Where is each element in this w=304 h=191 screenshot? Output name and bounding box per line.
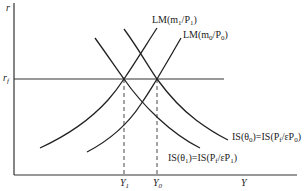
is1-label: IS(θ1)=IS(Pf/εP1)	[168, 152, 237, 165]
is1-curve	[95, 38, 200, 148]
lm0-label: LM(m0/P0)	[183, 29, 228, 42]
lm1-curve	[40, 28, 157, 148]
rf-label: rf	[3, 72, 10, 85]
x-axis-label: Y	[241, 177, 248, 188]
y0-label: Y0	[153, 177, 163, 190]
is-lm-diagram: r Y rf Y1 Y0 LM(m1/P1) LM(m0/P0) IS(θ0)=…	[0, 0, 304, 191]
y-axis-label: r	[6, 2, 10, 13]
lm0-curve	[87, 38, 181, 152]
is0-label: IS(θ0)=IS(Pf/εP0)	[232, 131, 301, 144]
lm1-label: LM(m1/P1)	[152, 14, 197, 27]
y1-label: Y1	[120, 177, 129, 190]
